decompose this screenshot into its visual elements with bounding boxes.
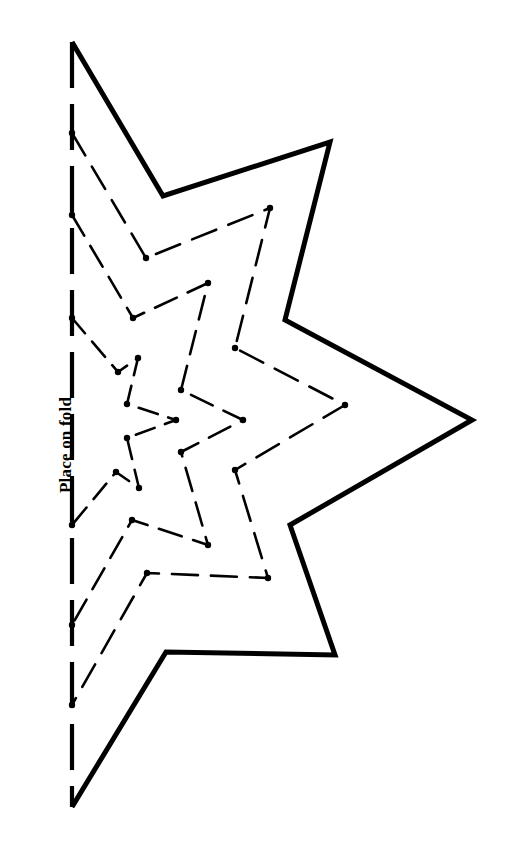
inner-star-guide-1 — [72, 133, 345, 705]
inner-star-guide-2-dots — [69, 212, 246, 628]
guide-vertex-dot — [232, 467, 238, 473]
guide-vertex-dot — [144, 570, 150, 576]
guide-vertex-dot — [265, 575, 271, 581]
guide-vertex-dot — [205, 542, 211, 548]
guide-vertex-dot — [173, 417, 179, 423]
guide-vertex-dot — [69, 212, 75, 218]
guide-vertex-dot — [135, 355, 141, 361]
guide-vertex-dot — [136, 485, 142, 491]
guide-vertex-dot — [143, 255, 149, 261]
guide-vertex-dot — [124, 435, 130, 441]
guide-vertex-dot — [113, 469, 119, 475]
place-on-fold-label: Place on fold — [56, 397, 76, 493]
outer-star-outline — [72, 42, 472, 807]
guide-vertex-dot — [129, 517, 135, 523]
guide-vertex-dot — [232, 345, 238, 351]
star-template-svg — [0, 0, 517, 854]
guide-vertex-dot — [240, 417, 246, 423]
inner-star-guide-3-dots — [69, 315, 179, 528]
guide-vertex-dot — [342, 402, 348, 408]
guide-vertex-dot — [130, 315, 136, 321]
guide-vertex-dot — [178, 449, 184, 455]
star-template-canvas: Place on fold — [0, 0, 517, 854]
inner-star-guide-2 — [72, 215, 243, 625]
guide-vertex-dot — [178, 387, 184, 393]
guide-vertex-dot — [115, 369, 121, 375]
guide-vertex-dot — [267, 205, 273, 211]
guide-vertex-dot — [124, 401, 130, 407]
inner-star-guides — [69, 130, 348, 708]
guide-vertex-dot — [69, 522, 75, 528]
inner-star-guide-3 — [72, 318, 176, 525]
guide-vertex-dot — [205, 280, 211, 286]
inner-star-guide-1-dots — [69, 130, 348, 708]
